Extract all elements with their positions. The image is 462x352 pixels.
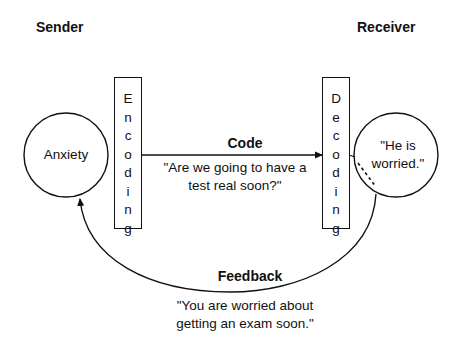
decoding-letter: e	[332, 109, 340, 128]
decoding-letter: i	[335, 183, 338, 202]
encoding-letter: o	[124, 146, 132, 165]
receiver-node-line2: worried."	[358, 155, 438, 173]
feedback-heading: Feedback	[195, 268, 305, 284]
decoding-box: D e c o d i n g	[322, 77, 350, 229]
feedback-line1: "You are worried about	[150, 297, 340, 315]
encoding-box: E n c o d i n g	[114, 77, 142, 229]
communication-diagram: Sender Receiver E n c o d i n g D e c o …	[0, 0, 462, 352]
sender-node-text: Anxiety	[24, 146, 108, 164]
decoding-letter: c	[333, 127, 340, 146]
code-line1: "Are we going to have a	[145, 159, 325, 177]
encoding-letter: g	[124, 220, 132, 239]
encoding-letter: n	[124, 201, 132, 220]
decoding-letter: o	[332, 146, 340, 165]
encoding-letter: d	[124, 164, 132, 183]
code-heading: Code	[195, 135, 295, 151]
decoding-letter: D	[331, 90, 341, 109]
feedback-line2: getting an exam soon."	[150, 315, 340, 333]
decoding-letter: d	[332, 164, 340, 183]
encoding-letter: n	[124, 109, 132, 128]
encoding-letter: E	[123, 90, 132, 109]
decoding-letter: g	[332, 220, 340, 239]
code-message: "Are we going to have a test real soon?"	[145, 159, 325, 195]
decoding-letter: n	[332, 201, 340, 220]
receiver-node-line1: "He is	[358, 137, 438, 155]
receiver-label: Receiver	[357, 19, 415, 35]
receiver-node-text: "He is worried."	[358, 137, 438, 173]
encoding-letter: c	[125, 127, 132, 146]
sender-label: Sender	[36, 19, 83, 35]
encoding-letter: i	[127, 183, 130, 202]
feedback-message: "You are worried about getting an exam s…	[150, 297, 340, 333]
code-line2: test real soon?"	[145, 177, 325, 195]
